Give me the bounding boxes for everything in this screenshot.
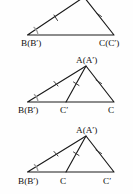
label-base-right-middle: C — [108, 105, 114, 115]
triangle-outline-middle — [28, 66, 115, 102]
panel-middle: A(A′) B(B′) C′ C — [0, 54, 133, 124]
triangle-outline-bottom — [28, 136, 115, 172]
label-base-left-bottom: B(B′) — [18, 176, 38, 186]
panel-bottom: A(A′) B(B′) C C′ — [0, 124, 133, 194]
label-apex-middle: A(A′) — [76, 55, 97, 65]
label-base-left-top: B(B′) — [21, 38, 41, 48]
label-apex-bottom: A(A′) — [76, 125, 97, 135]
label-base-right-top: C(C′) — [99, 38, 119, 48]
label-base-mid-middle: C′ — [60, 105, 68, 115]
panel-top: B(B′) C(C′) — [0, 0, 133, 52]
triangle-outline-top — [28, 0, 115, 35]
geometry-figure: B(B′) C(C′) A(A′) B(B′) C′ C — [0, 0, 133, 194]
label-base-left-middle: B(B′) — [18, 105, 38, 115]
label-base-right-bottom: C′ — [103, 176, 111, 186]
label-base-mid-bottom: C — [60, 176, 66, 186]
